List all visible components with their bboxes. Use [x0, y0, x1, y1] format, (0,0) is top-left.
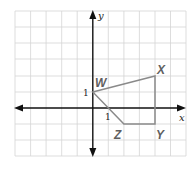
vertex-label-y: Y	[156, 128, 165, 142]
vertex-label-z: Z	[113, 128, 122, 142]
arrow-right-icon	[177, 105, 186, 112]
coordinate-plane: y x 1 1 W X Y Z	[0, 0, 192, 170]
vertex-label-x: X	[156, 63, 166, 77]
x-tick-label: 1	[105, 112, 111, 122]
y-axis-label: y	[97, 10, 104, 21]
vertex-label-w: W	[95, 76, 108, 90]
y-tick-label: 1	[83, 88, 89, 98]
x-axis-label: x	[179, 112, 185, 123]
